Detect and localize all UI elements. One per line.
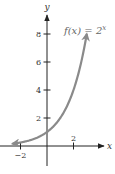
- exponential-function-chart: x y −222468 f(x) = 2x: [0, 0, 115, 174]
- y-tick-label: 4: [36, 86, 41, 95]
- x-tick-label: −2: [15, 151, 27, 160]
- function-label-base: f(x) = 2: [63, 25, 102, 36]
- y-axis-label: y: [43, 2, 50, 12]
- function-label-exponent: x: [102, 24, 106, 32]
- curve-2-to-the-x: [13, 34, 87, 144]
- y-tick-label: 2: [36, 114, 41, 123]
- x-axis-label: x: [107, 141, 112, 151]
- function-label: f(x) = 2x: [63, 24, 106, 36]
- y-tick-label: 6: [36, 58, 41, 67]
- x-tick-label: 2: [71, 134, 76, 143]
- y-tick-label: 8: [36, 30, 41, 39]
